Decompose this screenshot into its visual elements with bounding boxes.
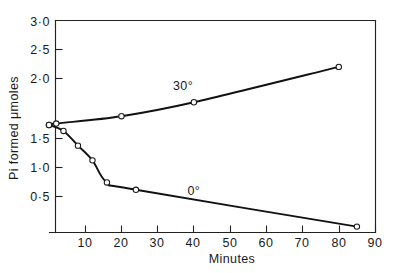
series-curve-0deg (49, 125, 357, 227)
y-axis-title: Pi formed μmoles (7, 76, 21, 180)
data-point-marker (133, 187, 138, 192)
data-point-marker (119, 113, 124, 118)
x-tick-label-20: 20 (114, 236, 129, 250)
series-curve-30deg (49, 67, 339, 125)
data-point-marker (75, 143, 80, 148)
data-point-marker (54, 121, 59, 126)
data-point-marker (336, 64, 341, 69)
data-point-marker (354, 224, 359, 229)
y-tick-label-2p5: 2·5 (30, 43, 50, 57)
y-tick-label-1p0: 1·0 (30, 161, 50, 175)
line-chart: 3·0 2·5 2·0 1·5 1·0 0·5 10 20 30 40 50 (0, 0, 394, 273)
x-tick-label-60: 60 (259, 236, 274, 250)
x-tick-label-90: 90 (368, 236, 383, 250)
y-tick-label-3p0: 3·0 (30, 15, 50, 29)
x-tick-label-30: 30 (150, 236, 165, 250)
data-series-group (46, 64, 359, 229)
y-tick-label-0p5: 0·5 (30, 190, 50, 204)
data-point-marker (61, 128, 66, 133)
x-axis-title: Minutes (209, 252, 256, 266)
x-axis-tick-labels: 10 20 30 40 50 60 70 80 90 (78, 236, 383, 250)
y-axis-tick-labels: 3·0 2·5 2·0 1·5 1·0 0·5 (30, 15, 50, 204)
x-tick-label-50: 50 (223, 236, 238, 250)
x-tick-label-40: 40 (186, 236, 201, 250)
series-label-30deg: 30° (173, 79, 193, 93)
series-label-0deg: 0° (188, 184, 201, 198)
x-tick-label-70: 70 (295, 236, 310, 250)
figure-container: 3·0 2·5 2·0 1·5 1·0 0·5 10 20 30 40 50 (0, 0, 394, 273)
data-point-marker (46, 122, 51, 127)
data-point-marker (90, 158, 95, 163)
y-tick-label-1p5: 1·5 (30, 132, 50, 146)
data-point-marker (191, 100, 196, 105)
y-tick-label-2p0: 2·0 (30, 72, 50, 86)
x-axis-ticks (86, 226, 376, 233)
x-tick-label-10: 10 (78, 236, 93, 250)
x-tick-label-80: 80 (332, 236, 347, 250)
axis-frame (50, 21, 376, 233)
data-point-marker (104, 180, 109, 185)
